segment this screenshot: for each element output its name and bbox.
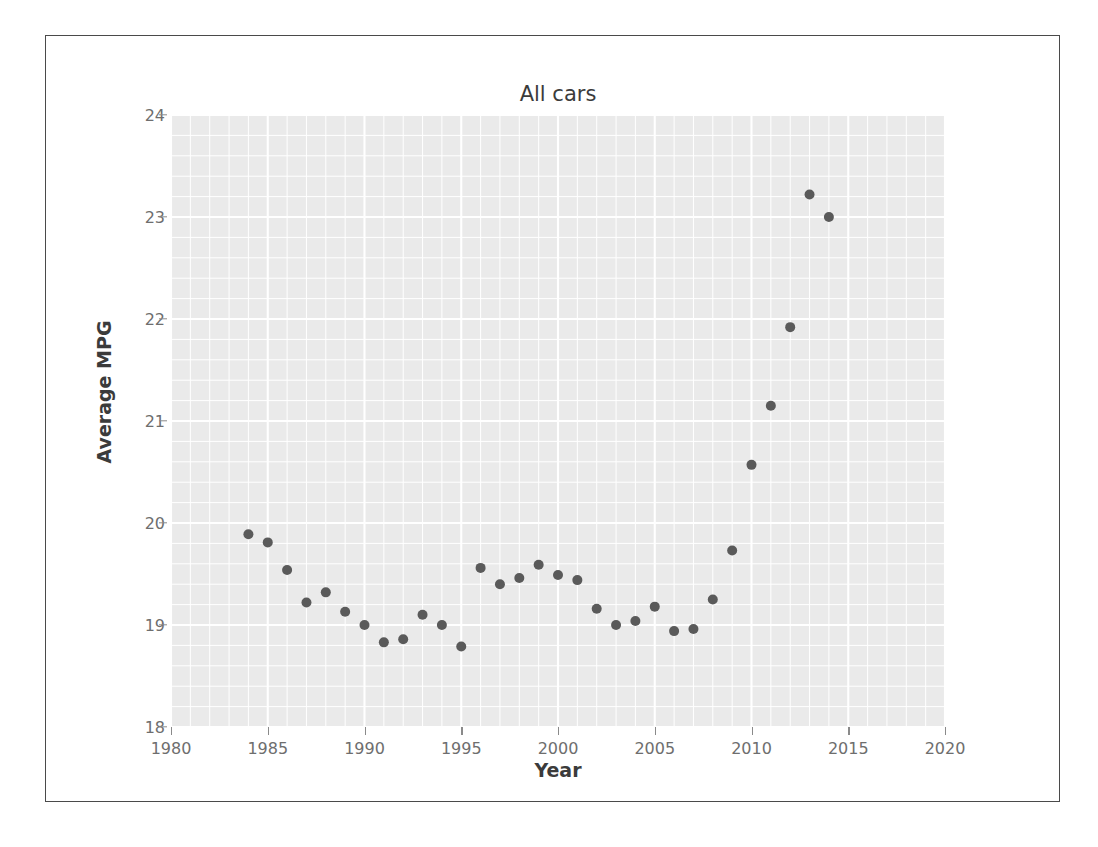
chart-title: All cars (171, 82, 945, 106)
data-point (340, 607, 350, 617)
y-axis-label: Average MPG (93, 162, 115, 622)
x-tick-label: 2000 (522, 739, 594, 758)
y-tick-mark (159, 624, 167, 625)
data-point (630, 616, 640, 626)
x-tick-mark (171, 727, 172, 735)
x-tick-label: 2005 (619, 739, 691, 758)
data-point (708, 595, 718, 605)
data-point (360, 620, 370, 630)
data-point (437, 620, 447, 630)
x-tick-label: 1985 (232, 739, 304, 758)
data-point (514, 573, 524, 583)
data-point (534, 560, 544, 570)
data-point (785, 322, 795, 332)
data-point (495, 579, 505, 589)
data-point (611, 620, 621, 630)
x-tick-mark (945, 727, 946, 735)
y-tick-mark (159, 318, 167, 319)
x-tick-label: 2015 (812, 739, 884, 758)
x-tick-label: 1995 (425, 739, 497, 758)
data-point (592, 604, 602, 614)
chart-canvas: All cars 18192021222324 1980198519901995… (46, 36, 1059, 801)
data-point (688, 624, 698, 634)
data-point (476, 563, 486, 573)
data-point (282, 565, 292, 575)
x-tick-mark (752, 727, 753, 735)
data-point (747, 460, 757, 470)
data-point (669, 626, 679, 636)
data-point (766, 401, 776, 411)
data-point (572, 575, 582, 585)
data-point (379, 637, 389, 647)
x-tick-mark (655, 727, 656, 735)
x-tick-label: 2010 (716, 739, 788, 758)
x-tick-mark (848, 727, 849, 735)
data-point (650, 602, 660, 612)
data-point (805, 190, 815, 200)
y-tick-mark (159, 114, 167, 115)
data-point (321, 587, 331, 597)
figure-frame: All cars 18192021222324 1980198519901995… (45, 35, 1060, 802)
y-tick-mark (159, 216, 167, 217)
data-point (418, 610, 428, 620)
x-tick-label: 1990 (329, 739, 401, 758)
data-point (243, 529, 253, 539)
y-axis-ticks: 18192021222324 (109, 115, 165, 727)
data-point (553, 570, 563, 580)
y-tick-mark (159, 522, 167, 523)
y-tick-mark (159, 420, 167, 421)
data-point (263, 537, 273, 547)
x-tick-mark (365, 727, 366, 735)
data-point (456, 641, 466, 651)
data-point (398, 634, 408, 644)
data-point (824, 212, 834, 222)
plot-area (171, 115, 945, 727)
data-point (301, 598, 311, 608)
x-tick-mark (461, 727, 462, 735)
scatter-points (171, 115, 945, 727)
x-tick-mark (558, 727, 559, 735)
x-tick-mark (268, 727, 269, 735)
data-point (727, 546, 737, 556)
x-axis-label: Year (171, 759, 945, 781)
x-tick-label: 2020 (909, 739, 981, 758)
x-tick-label: 1980 (135, 739, 207, 758)
y-tick-mark (159, 726, 167, 727)
